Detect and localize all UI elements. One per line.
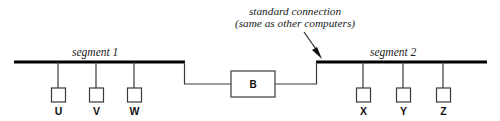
node-label-z: Z <box>440 105 447 117</box>
segment-1-label: segment 1 <box>72 46 118 59</box>
node-label-u: U <box>55 105 63 117</box>
computer-box-y[interactable] <box>397 88 411 102</box>
computer-box-x[interactable] <box>357 88 371 102</box>
computer-box-z[interactable] <box>437 88 451 102</box>
annotation-line-2: (same as other computers) <box>235 17 355 30</box>
node-label-v: V <box>93 105 100 117</box>
computer-box-v[interactable] <box>90 88 104 102</box>
bridge-label: B <box>249 79 256 90</box>
bridge-link-left <box>185 62 232 84</box>
annotation-arrow-icon <box>312 47 322 59</box>
diagram-canvas: standard connection (same as other compu… <box>0 0 500 121</box>
annotation-line-1: standard connection <box>249 5 341 17</box>
node-label-y: Y <box>400 105 407 117</box>
bridge-link-right <box>275 62 317 84</box>
segment-2-label: segment 2 <box>370 46 417 59</box>
computer-box-w[interactable] <box>128 88 142 102</box>
network-diagram: standard connection (same as other compu… <box>0 0 500 121</box>
node-label-w: W <box>130 105 140 117</box>
node-label-x: X <box>360 105 367 117</box>
computer-box-u[interactable] <box>52 88 66 102</box>
